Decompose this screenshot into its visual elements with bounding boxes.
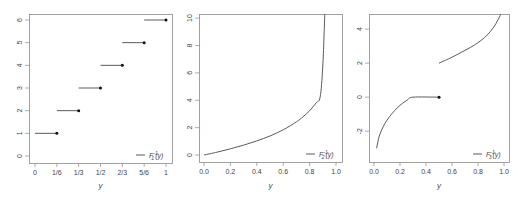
x-axis: 01/61/31/22/35/61: [33, 164, 168, 177]
chart-panel-2: 0.00.20.40.60.81.0y0246810F-12(y): [186, 14, 343, 190]
x-tick-label: 0.4: [421, 168, 431, 175]
x-tick-label: 0.8: [473, 168, 483, 175]
y-tick-label: -2: [356, 128, 363, 134]
y-tick-label: 10: [186, 14, 193, 22]
y-tick-label: 6: [186, 71, 193, 75]
legend-label: F-11(y): [149, 150, 163, 161]
y-tick-label: 8: [186, 43, 193, 47]
closed-point: [55, 132, 58, 135]
x-axis: 0.00.20.40.60.81.0: [199, 163, 341, 176]
x-tick-label: 0.6: [447, 168, 457, 175]
curve-line: [377, 97, 439, 148]
y-axis: 0123456: [16, 18, 30, 158]
legend-label: F-12(y): [319, 149, 334, 160]
closed-point: [121, 64, 124, 67]
x-tick-label: 1: [164, 169, 168, 176]
y-tick-label: 2: [356, 61, 363, 65]
chart-panel-3: 0.00.20.40.60.81.0y-2024F-13(y): [356, 12, 510, 190]
y-tick-label: 4: [16, 63, 23, 67]
y-tick-label: 1: [16, 131, 23, 135]
legend: F-12(y): [306, 149, 334, 160]
x-tick-label: 0.4: [252, 168, 262, 175]
y-tick-label: 6: [16, 18, 23, 22]
series-group: [204, 14, 325, 155]
x-tick-label: 0.6: [278, 168, 288, 175]
x-tick-label: 1/2: [96, 169, 106, 176]
plot-frame: [370, 15, 510, 163]
x-axis-title: y: [98, 181, 104, 190]
figure: 01/61/31/22/35/61y0123456F-11(y) 0.00.20…: [0, 0, 524, 199]
x-tick-label: 2/3: [117, 169, 127, 176]
closed-point: [438, 96, 441, 99]
x-tick-label: 0.8: [305, 168, 315, 175]
x-tick-label: 1.0: [499, 168, 509, 175]
x-axis-title: y: [268, 181, 274, 190]
y-tick-label: 2: [186, 126, 193, 130]
x-tick-label: 1.0: [331, 168, 341, 175]
x-axis-title: y: [436, 181, 442, 190]
closed-point: [99, 87, 102, 90]
x-tick-label: 1/6: [52, 169, 62, 176]
x-tick-label: 0: [33, 169, 37, 176]
y-tick-label: 5: [16, 41, 23, 45]
y-tick-label: 4: [186, 98, 193, 102]
closed-point: [143, 41, 146, 44]
curve-line: [439, 12, 501, 63]
x-tick-label: 0.0: [199, 168, 209, 175]
y-tick-label: 2: [16, 109, 23, 113]
curve-line: [204, 14, 325, 155]
y-tick-label: 0: [356, 95, 363, 99]
y-tick-label: 0: [186, 153, 193, 157]
x-tick-label: 0.0: [369, 168, 379, 175]
closed-point: [165, 19, 168, 22]
x-tick-label: 1/3: [74, 169, 84, 176]
x-axis: 0.00.20.40.60.81.0: [369, 163, 509, 176]
y-axis: 0246810: [186, 14, 200, 157]
x-tick-label: 0.2: [395, 168, 405, 175]
y-tick-label: 4: [356, 27, 363, 31]
x-tick-label: 5/6: [139, 169, 149, 176]
legend: F-13(y): [473, 149, 501, 160]
y-tick-label: 3: [16, 86, 23, 90]
closed-point: [77, 109, 80, 112]
series-group: [377, 12, 502, 148]
legend-label: F-13(y): [486, 149, 501, 160]
legend: F-11(y): [136, 150, 163, 161]
y-tick-label: 0: [16, 154, 23, 158]
x-tick-label: 0.2: [226, 168, 236, 175]
series-group: [35, 20, 166, 133]
y-axis: -2024: [356, 27, 370, 134]
chart-panel-1: 01/61/31/22/35/61y0123456F-11(y): [16, 15, 173, 191]
